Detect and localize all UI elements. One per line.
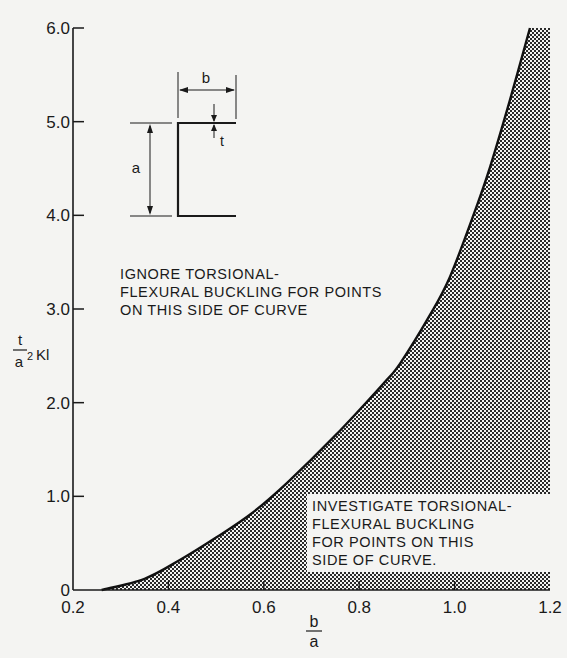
x-tick-label: 0.4 [157,598,181,617]
ignore-note-line-1: IGNORE TORSIONAL- [120,266,280,282]
investigate-note-line-2: FLEXURAL BUCKLING [312,516,475,532]
inset-label-t: t [220,133,224,149]
x-tick-label: 0.2 [61,598,85,617]
x-label-numerator: b [310,613,319,630]
y-label-suffix: Kl [36,346,49,363]
investigate-note-line-4: SIDE OF CURVE. [312,552,437,568]
inset-label-a: a [132,159,141,176]
y-tick-label: 1.0 [46,487,70,506]
y-tick-label: 6.0 [46,19,70,38]
x-label-denominator: a [310,633,319,650]
y-tick-label: 3.0 [46,300,70,319]
ignore-note: IGNORE TORSIONAL- FLEXURAL BUCKLING FOR … [120,266,382,318]
y-tick-label: 2.0 [46,394,70,413]
inset-label-b: b [202,69,210,86]
investigate-note: INVESTIGATE TORSIONAL- FLEXURAL BUCKLING… [307,494,551,572]
chart: 01.02.03.04.05.06.0 0.20.40.60.81.01.2 t… [0,0,567,658]
y-tick-label: 4.0 [46,206,70,225]
x-axis-label: b a [306,613,322,650]
y-label-denominator: a [15,353,24,370]
x-tick-label: 0.6 [252,598,276,617]
y-label-exponent: 2 [27,350,33,362]
y-label-numerator: t [18,331,23,348]
y-tick-label: 5.0 [46,113,70,132]
investigate-note-line-1: INVESTIGATE TORSIONAL- [312,498,512,514]
y-ticks: 01.02.03.04.05.06.0 [46,19,84,600]
ignore-note-line-3: ON THIS SIDE OF CURVE [120,302,308,318]
x-tick-label: 0.8 [347,598,371,617]
ignore-note-line-2: FLEXURAL BUCKLING FOR POINTS [120,284,382,300]
x-tick-label: 1.2 [538,598,562,617]
y-axis-label: t a 2 Kl [13,331,49,370]
x-tick-label: 1.0 [443,598,467,617]
investigate-note-line-3: FOR POINTS ON THIS [312,534,474,550]
